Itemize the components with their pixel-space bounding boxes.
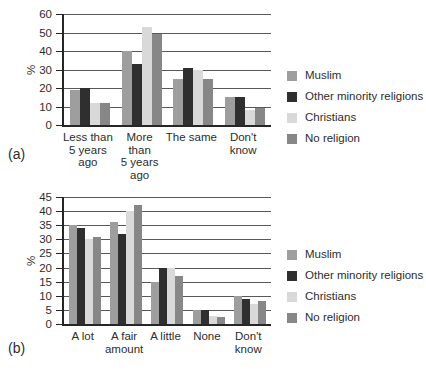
y-tick-mark [56,51,64,52]
legend-label: Christians [305,111,356,124]
bar-no-religion [93,237,101,324]
legend-b: MuslimOther minority religionsChristians… [287,248,423,332]
y-tick-label: 5 [20,304,52,316]
y-tick-mark [56,282,64,283]
bar-group-a-lot [64,197,105,324]
y-tick-label: 60 [20,8,52,20]
y-tick-label: 30 [20,233,52,245]
y-tick-mark [56,88,64,89]
bar-christians [167,268,175,324]
bar-muslim [193,310,201,324]
bar-other-minority-religions [242,299,250,324]
y-tick-mark [56,296,64,297]
x-axis-labels-b: A lotA fairamountA littleNoneDon'tknow [62,330,269,360]
legend-item-muslim: Muslim [287,69,423,82]
x-axis-label: Less than5 yearsago [62,131,114,169]
y-tick-mark [56,107,64,108]
y-tick-mark [56,211,64,212]
x-axis-label: A lot [62,330,103,343]
legend-label: Muslim [305,248,341,261]
bar-muslim [151,282,159,324]
legend-label: No religion [305,132,360,145]
y-tick-mark [56,125,64,126]
y-tick-label: 20 [20,262,52,274]
bar-other-minority-religions [118,234,126,324]
figure-canvas: % 0102030405060 Less than5 yearsagoMore … [0,0,426,371]
legend-label: Other minority religions [305,269,423,282]
legend-swatch-icon [287,271,297,281]
legend-item-no-religion: No religion [287,311,423,324]
bar-no-religion [175,276,183,324]
bar-group-a-fair-amount [105,197,146,324]
legend-label: Muslim [305,69,341,82]
y-tick-mark [56,268,64,269]
bar-no-religion [100,103,110,125]
y-tick-label: 45 [20,191,52,203]
y-tick-label: 40 [20,45,52,57]
y-tick-label: 40 [20,205,52,217]
y-tick-mark [56,253,64,254]
bar-other-minority-religions [132,64,142,125]
bar-group-less-than-5-years-ago [64,14,116,125]
legend-label: Other minority religions [305,90,423,103]
x-axis-label: A little [145,330,186,343]
legend-swatch-icon [287,250,297,260]
legend-swatch-icon [287,113,297,123]
bar-group-none [188,197,229,324]
panel-a-label: (a) [8,146,25,162]
bar-group-don-t-know [230,197,271,324]
bar-christians [209,316,217,324]
y-tick-label: 10 [20,101,52,113]
legend-a: MuslimOther minority religionsChristians… [287,69,423,153]
bar-no-religion [152,34,162,125]
bar-muslim [122,51,132,125]
y-tick-label: 10 [20,290,52,302]
bar-other-minority-religions [77,228,85,324]
y-tick-mark [56,310,64,311]
bar-muslim [69,225,77,324]
x-axis-label: A fairamount [103,330,144,355]
bar-muslim [70,90,80,125]
y-tick-mark [56,33,64,34]
plot-area-b: 051015202530354045 [62,197,271,326]
panel-b-label: (b) [8,340,25,356]
y-tick-mark [56,225,64,226]
y-tick-label: 0 [20,318,52,330]
y-tick-label: 30 [20,64,52,76]
y-tick-mark [56,70,64,71]
bar-no-religion [134,205,142,324]
bar-christians [193,70,203,126]
legend-item-muslim: Muslim [287,248,423,261]
bar-group-the-same [168,14,220,125]
plot-area-a: 0102030405060 [62,14,271,127]
bar-other-minority-religions [159,268,167,324]
x-axis-label: More than5 yearsago [114,131,166,181]
bar-christians [142,27,152,125]
bar-christians [85,239,93,324]
y-tick-label: 0 [20,119,52,131]
bar-christians [245,110,255,125]
bar-muslim [225,97,235,125]
legend-item-no-religion: No religion [287,132,423,145]
x-axis-labels-a: Less than5 yearsagoMore than5 yearsagoTh… [62,131,269,173]
x-axis-label: Don'tknow [217,131,269,156]
bar-christians [126,211,134,324]
legend-item-other-minority-religions: Other minority religions [287,90,423,103]
bar-group-don-t-know [219,14,271,125]
bar-other-minority-religions [235,97,245,125]
bar-group-a-little [147,197,188,324]
y-tick-mark [56,197,64,198]
y-tick-mark [56,14,64,15]
bar-no-religion [217,317,225,324]
bar-muslim [234,296,242,324]
legend-item-christians: Christians [287,111,423,124]
legend-item-christians: Christians [287,290,423,303]
legend-swatch-icon [287,292,297,302]
y-tick-mark [56,239,64,240]
x-axis-label: The same [166,131,218,144]
legend-swatch-icon [287,313,297,323]
bar-muslim [173,79,183,125]
y-tick-mark [56,324,64,325]
legend-label: No religion [305,311,360,324]
bar-muslim [110,222,118,324]
